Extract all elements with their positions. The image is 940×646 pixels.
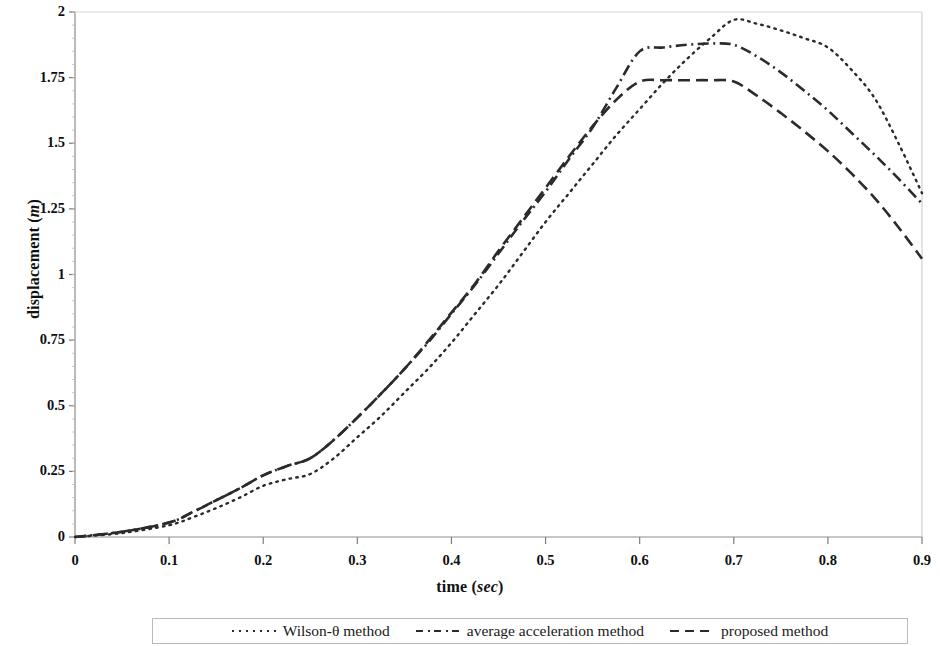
- x-axis-title-unit: sec: [477, 578, 498, 595]
- x-tick-label: 0.7: [704, 552, 764, 569]
- x-axis-title: time (sec): [0, 578, 940, 596]
- chart-figure: 00.250.50.7511.251.51.752 00.10.20.30.40…: [0, 0, 940, 646]
- x-tick-label: 0.3: [327, 552, 387, 569]
- y-tick-label: 1.75: [13, 69, 65, 86]
- legend-label: proposed method: [721, 622, 828, 640]
- y-tick-label: 2: [13, 3, 65, 20]
- legend-entry-0[interactable]: Wilson-θ method: [232, 622, 390, 640]
- x-tick-label: 0.8: [798, 552, 858, 569]
- chart-legend: Wilson-θ methodaverage acceleration meth…: [152, 618, 908, 644]
- x-tick-label: 0.4: [421, 552, 481, 569]
- legend-swatch-dotted-icon: [232, 630, 276, 632]
- y-tick-label: 0.5: [13, 397, 65, 414]
- legend-label: Wilson-θ method: [283, 622, 390, 640]
- x-axis-title-tail: ): [498, 578, 504, 595]
- series-line-1: [75, 43, 922, 537]
- x-tick-label: 0: [45, 552, 105, 569]
- legend-swatch-dashed-icon: [670, 630, 714, 632]
- legend-label: average acceleration method: [467, 622, 644, 640]
- y-axis-title: displacement (m): [25, 129, 43, 389]
- legend-entry-1[interactable]: average acceleration method: [416, 622, 644, 640]
- legend-entry-2[interactable]: proposed method: [670, 622, 828, 640]
- y-axis-title-unit: m: [25, 204, 42, 217]
- y-tick-label: 0: [13, 528, 65, 545]
- x-tick-label: 0.1: [139, 552, 199, 569]
- legend-swatch-dash-dot-icon: [416, 630, 460, 632]
- tick-marks: [69, 12, 922, 544]
- x-axis-title-text: time (: [436, 578, 477, 595]
- plot-area: [0, 0, 940, 646]
- y-axis-title-text: displacement (: [25, 217, 42, 319]
- series-line-0: [75, 19, 922, 537]
- x-tick-label: 0.6: [610, 552, 670, 569]
- y-tick-label: 0.25: [13, 462, 65, 479]
- series-line-2: [75, 80, 922, 537]
- x-tick-label: 0.9: [892, 552, 940, 569]
- series-lines: [75, 19, 922, 537]
- x-tick-label: 0.5: [516, 552, 576, 569]
- y-axis-title-tail: ): [25, 199, 42, 205]
- axis-frame: [75, 12, 922, 537]
- x-tick-label: 0.2: [233, 552, 293, 569]
